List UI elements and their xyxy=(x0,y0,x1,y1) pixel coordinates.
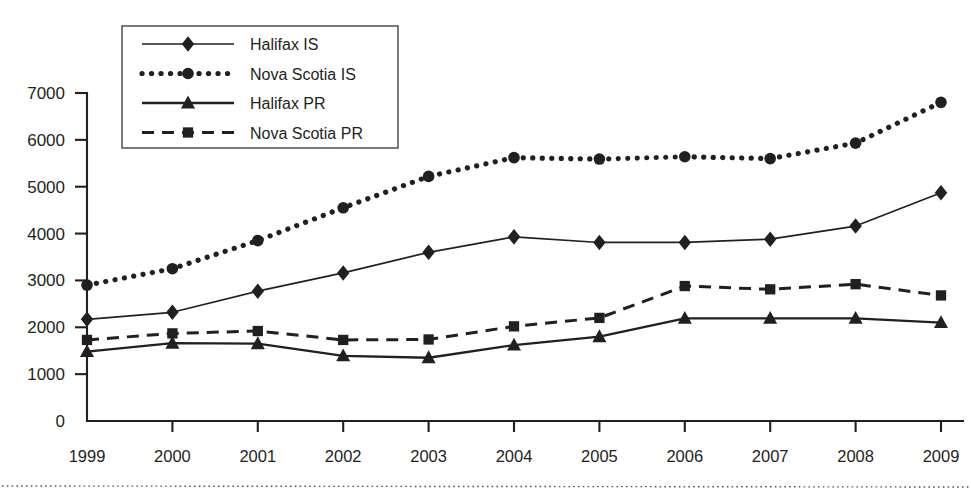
x-axis-tick-label: 2002 xyxy=(325,447,362,465)
legend-item-label: Halifax IS xyxy=(250,36,318,53)
series-nova-scotia-pr xyxy=(82,279,946,345)
data-point-circle xyxy=(850,137,862,149)
data-point-diamond xyxy=(764,231,776,247)
data-point-square xyxy=(338,335,348,345)
y-axis-tick-label: 5000 xyxy=(27,178,65,197)
data-point-diamond xyxy=(849,218,861,234)
x-axis-tick-label: 1999 xyxy=(69,447,106,465)
x-axis-tick-label: 2005 xyxy=(581,447,618,465)
y-axis: 01000200030004000500060007000 xyxy=(27,84,87,431)
x-axis-tick-label: 2009 xyxy=(923,447,960,465)
data-point-circle xyxy=(764,153,776,165)
data-point-diamond xyxy=(422,245,434,261)
series-halifax-pr xyxy=(80,311,948,363)
y-axis-tick-label: 6000 xyxy=(27,131,65,150)
data-point-square xyxy=(167,328,177,338)
data-point-circle xyxy=(167,263,179,275)
data-point-square xyxy=(183,127,193,137)
x-axis-tick-label: 2007 xyxy=(752,447,789,465)
data-point-circle xyxy=(508,152,520,164)
y-axis-tick-label: 4000 xyxy=(27,225,65,244)
data-point-circle xyxy=(594,153,606,165)
data-point-square xyxy=(850,279,860,289)
y-axis-tick-label: 3000 xyxy=(27,271,65,290)
x-axis: 1999200020012002200320042005200620072008… xyxy=(69,421,963,465)
x-axis-tick-label: 2003 xyxy=(410,447,447,465)
y-axis-tick-label: 2000 xyxy=(27,318,65,337)
data-point-circle xyxy=(935,97,947,109)
data-point-diamond xyxy=(337,265,349,281)
footer-divider xyxy=(2,486,969,487)
x-axis-tick-label: 2001 xyxy=(239,447,276,465)
data-point-square xyxy=(253,326,263,336)
data-point-diamond xyxy=(935,185,947,201)
line-chart-canvas: 01000200030004000500060007000 1999200020… xyxy=(0,0,971,500)
data-point-diamond xyxy=(679,235,691,251)
data-point-circle xyxy=(423,171,435,183)
x-axis-tick-label: 2000 xyxy=(154,447,191,465)
y-axis-tick-label: 1000 xyxy=(27,365,65,384)
y-axis-tick-label: 7000 xyxy=(27,84,65,103)
chart-legend: Halifax ISNova Scotia ISHalifax PRNova S… xyxy=(122,26,398,148)
x-axis-tick-label: 2004 xyxy=(496,447,533,465)
data-point-diamond xyxy=(166,304,178,320)
data-point-square xyxy=(509,321,519,331)
legend-item-label: Nova Scotia IS xyxy=(250,66,356,83)
data-point-square xyxy=(594,313,604,323)
data-point-circle xyxy=(337,202,349,214)
data-point-diamond xyxy=(81,312,93,328)
legend-item-label: Halifax PR xyxy=(250,95,326,112)
series-path xyxy=(87,284,941,340)
data-point-circle xyxy=(252,235,264,247)
data-point-diamond xyxy=(252,283,264,299)
data-point-circle xyxy=(182,68,194,80)
data-point-circle xyxy=(679,151,691,163)
data-point-circle xyxy=(81,279,93,291)
x-axis-tick-label: 2006 xyxy=(666,447,703,465)
series-halifax-is xyxy=(81,185,947,327)
data-point-diamond xyxy=(508,229,520,245)
data-point-square xyxy=(936,290,946,300)
chart-figure: 01000200030004000500060007000 1999200020… xyxy=(0,0,971,500)
y-axis-tick-label: 0 xyxy=(56,412,65,431)
data-point-square xyxy=(680,281,690,291)
data-point-square xyxy=(765,284,775,294)
data-point-diamond xyxy=(593,235,605,251)
legend-item-label: Nova Scotia PR xyxy=(250,125,363,142)
x-axis-tick-label: 2008 xyxy=(837,447,874,465)
data-point-square xyxy=(423,334,433,344)
data-point-square xyxy=(82,335,92,345)
